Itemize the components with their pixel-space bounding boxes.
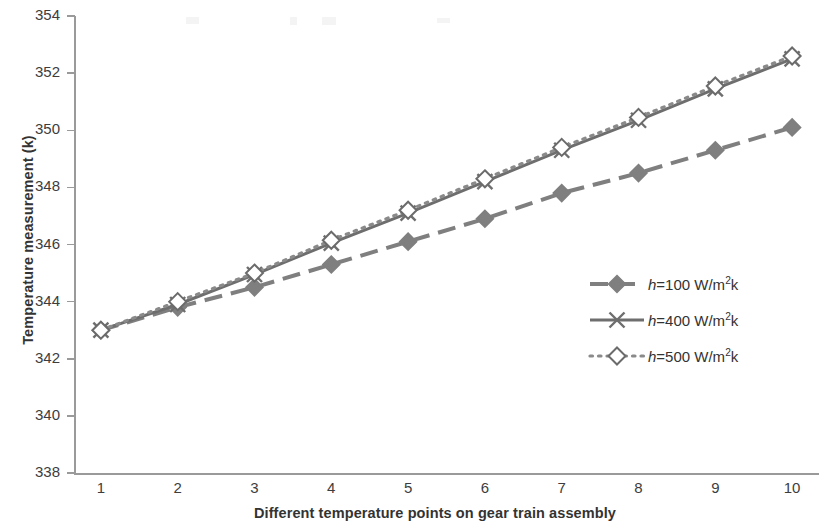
data-point-marker [400, 202, 417, 219]
chart-figure: Temperature measurement (k) 338340342344… [0, 0, 831, 524]
series-plot [0, 0, 831, 524]
y-tick-mark [67, 244, 75, 246]
data-point-marker [707, 77, 724, 94]
y-tick-label: 354 [0, 6, 60, 23]
x-tick-label: 10 [772, 479, 812, 496]
data-point-marker [169, 299, 186, 316]
data-point-marker [476, 210, 493, 227]
y-tick-label: 340 [0, 406, 60, 423]
chart-legend: h=100 W/m2kh=400 W/m2kh=500 W/m2k [588, 266, 818, 374]
y-tick-mark [67, 130, 75, 132]
x-tick-label: 2 [158, 479, 198, 496]
legend-label: h=100 W/m2k [646, 276, 738, 293]
data-point-marker [246, 279, 263, 296]
y-tick-mark [67, 187, 75, 189]
legend-swatch-icon [588, 346, 646, 366]
y-tick-mark [67, 472, 75, 474]
data-point-marker [170, 297, 185, 312]
legend-swatch-icon [588, 274, 646, 294]
data-point-marker [169, 293, 186, 310]
data-point-marker [401, 206, 416, 221]
data-point-marker [400, 233, 417, 250]
data-point-marker [609, 348, 626, 365]
x-axis-title: Different temperature points on gear tra… [74, 505, 796, 521]
legend-item-1[interactable]: h=100 W/m2k [588, 266, 818, 302]
x-tick-label: 3 [234, 479, 274, 496]
y-tick-mark [67, 358, 75, 360]
data-point-marker [92, 322, 109, 339]
legend-label: h=500 W/m2k [646, 348, 738, 365]
data-point-marker [630, 165, 647, 182]
y-tick-label: 352 [0, 63, 60, 80]
y-tick-mark [67, 301, 75, 303]
data-point-marker [631, 113, 646, 128]
data-point-marker [785, 51, 800, 66]
data-point-marker [630, 109, 647, 126]
legend-item-2[interactable]: h=400 W/m2k [588, 302, 818, 338]
data-point-marker [324, 236, 339, 251]
scan-artifact [290, 17, 297, 25]
y-tick-label: 348 [0, 177, 60, 194]
y-tick-label: 342 [0, 349, 60, 366]
data-point-marker [477, 174, 492, 189]
x-tick-label: 9 [695, 479, 735, 496]
data-point-marker [323, 232, 340, 249]
x-tick-label: 7 [542, 479, 582, 496]
y-tick-label: 346 [0, 235, 60, 252]
data-point-marker [554, 143, 569, 158]
data-point-marker [553, 139, 570, 156]
data-point-marker [323, 256, 340, 273]
scan-artifact [437, 18, 450, 23]
data-point-marker [784, 47, 801, 64]
x-tick-label: 1 [81, 479, 121, 496]
y-tick-label: 338 [0, 463, 60, 480]
data-point-marker [476, 170, 493, 187]
legend-item-3[interactable]: h=500 W/m2k [588, 338, 818, 374]
x-axis-line [74, 473, 819, 475]
data-point-marker [784, 119, 801, 136]
legend-label: h=400 W/m2k [646, 312, 738, 329]
data-point-marker [707, 142, 724, 159]
legend-swatch-icon [588, 310, 646, 330]
data-point-marker [92, 322, 109, 339]
y-tick-label: 344 [0, 292, 60, 309]
data-point-marker [246, 265, 263, 282]
data-point-marker [708, 81, 723, 96]
y-tick-mark [67, 72, 75, 74]
y-tick-mark [67, 415, 75, 417]
data-point-marker [553, 185, 570, 202]
data-point-marker [609, 276, 626, 293]
y-tick-label: 350 [0, 120, 60, 137]
x-tick-label: 6 [465, 479, 505, 496]
scan-artifact [186, 17, 199, 24]
scan-artifact [322, 17, 336, 25]
y-tick-mark [67, 15, 75, 17]
x-tick-label: 5 [388, 479, 428, 496]
data-point-marker [247, 267, 262, 282]
data-point-marker [93, 323, 108, 338]
x-tick-label: 4 [311, 479, 351, 496]
x-tick-label: 8 [619, 479, 659, 496]
